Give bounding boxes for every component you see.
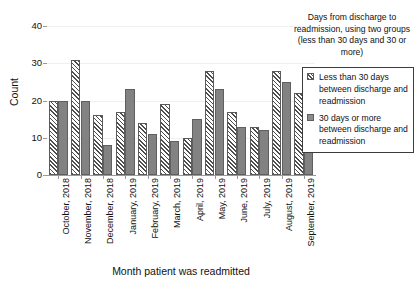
plot-area <box>47 26 315 175</box>
legend-swatch-hatch-icon <box>307 73 314 80</box>
bar <box>103 145 112 175</box>
gridline <box>47 26 315 27</box>
y-axis-tick-label: 40 <box>18 21 42 31</box>
x-axis-tick-label: February, 2019 <box>151 178 160 238</box>
x-axis-tick-labels: October, 2018November, 2018December, 201… <box>47 176 315 258</box>
x-axis-tick-label: July, 2019 <box>263 178 272 218</box>
legend-item-label: 30 days or more between discharge and re… <box>319 113 409 149</box>
bar <box>215 89 224 175</box>
bar-chart: Count 010203040 October, 2018November, 2… <box>0 0 418 294</box>
y-axis-tick-label: 20 <box>18 96 42 106</box>
bar <box>81 101 90 176</box>
x-axis-tick-label: September, 2019 <box>307 178 316 247</box>
y-axis-tick-label: 10 <box>18 133 42 143</box>
legend: Less than 30 days between discharge and … <box>302 67 414 153</box>
gridline <box>47 63 315 64</box>
bar <box>170 141 179 175</box>
bar <box>71 60 80 175</box>
legend-item[interactable]: 30 days or more between discharge and re… <box>307 113 409 149</box>
bar <box>160 104 169 175</box>
bar <box>93 115 102 175</box>
bar <box>49 101 58 176</box>
bar <box>125 89 134 175</box>
legend-item[interactable]: Less than 30 days between discharge and … <box>307 72 409 108</box>
x-axis-tick-label: April, 2019 <box>196 178 205 221</box>
bar <box>259 130 268 175</box>
y-axis-tick-label: 0 <box>18 170 42 180</box>
x-axis-tick-label: November, 2018 <box>84 178 93 244</box>
bar <box>205 71 214 175</box>
x-axis-tick-label: August, 2019 <box>285 178 294 231</box>
x-axis-tick-label: December, 2018 <box>106 178 115 244</box>
x-axis-title: Month patient was readmitted <box>47 265 315 277</box>
bar <box>148 134 157 175</box>
bar <box>58 101 67 176</box>
bar <box>250 127 259 175</box>
bar <box>138 123 147 175</box>
bar <box>116 112 125 175</box>
y-axis-tick-label: 30 <box>18 58 42 68</box>
legend-title: Days from discharge to readmission, usin… <box>289 12 415 58</box>
x-axis-tick-label: March, 2019 <box>173 178 182 228</box>
bar <box>227 112 236 175</box>
bar <box>183 138 192 175</box>
x-axis-tick-label: January, 2019 <box>129 178 138 234</box>
bar <box>272 71 281 175</box>
x-axis-tick-label: October, 2018 <box>62 178 71 235</box>
legend-swatch-solid-icon <box>307 114 314 121</box>
bar <box>237 127 246 175</box>
legend-item-label: Less than 30 days between discharge and … <box>319 72 409 108</box>
x-axis-tick-label: June, 2019 <box>240 178 249 223</box>
bar <box>192 119 201 175</box>
x-axis-tick-label: May, 2019 <box>218 178 227 219</box>
bar <box>282 82 291 175</box>
